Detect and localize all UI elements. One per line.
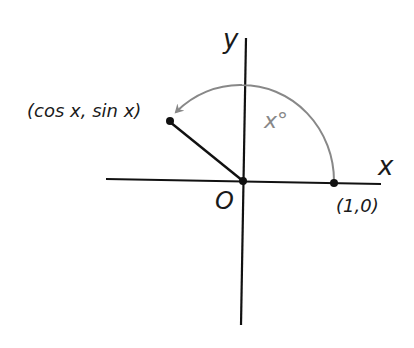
start-point-label: (1,0) [336, 195, 379, 216]
y-axis-label: y [222, 24, 239, 54]
x-axis-label: x [377, 151, 394, 181]
terminal-point-label: (cos x, sin x) [27, 100, 141, 121]
origin-point [239, 177, 247, 185]
terminal-point [166, 117, 174, 125]
unit-circle-diagram: y x O (1,0) (cos x, sin x) x° [0, 0, 414, 348]
start-point [330, 179, 338, 187]
angle-label: x° [263, 108, 288, 133]
terminal-ray [170, 122, 243, 181]
origin-label: O [215, 187, 234, 215]
angle-arc [176, 85, 334, 181]
